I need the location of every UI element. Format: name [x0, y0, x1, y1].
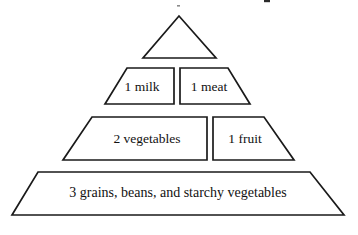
pyramid-diagram: 1 milk 1 meat 2 vegetables 1 fruit 3 gra… — [0, 0, 358, 235]
pyramid-tier-meat-label: 1 meat — [191, 79, 228, 94]
clipped-title-artifact-secondary — [177, 5, 180, 7]
pyramid-tier-apex[interactable] — [143, 16, 216, 58]
pyramid-tier-fruit-label: 1 fruit — [228, 131, 262, 146]
pyramid-tier-milk-label: 1 milk — [125, 79, 160, 94]
pyramid-tier-grains-label: 3 grains, beans, and starchy vegetables — [69, 185, 286, 200]
clipped-title-artifact — [264, 0, 270, 2]
food-pyramid-figure: 1 milk 1 meat 2 vegetables 1 fruit 3 gra… — [0, 0, 358, 235]
pyramid-tier-vegetables-label: 2 vegetables — [113, 131, 180, 146]
